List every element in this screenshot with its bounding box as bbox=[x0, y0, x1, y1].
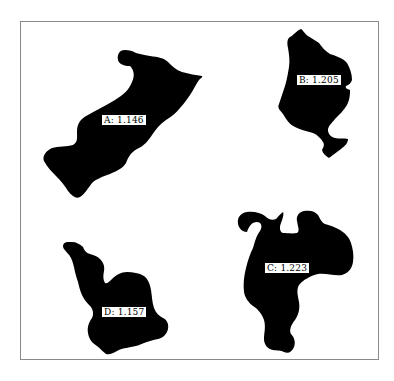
region-label-b: B: 1.205 bbox=[296, 74, 342, 86]
region-label-a: A: 1.146 bbox=[101, 114, 147, 126]
region-label-d: D: 1.157 bbox=[101, 306, 147, 318]
region-shape-d bbox=[63, 242, 168, 354]
region-shape-b bbox=[278, 29, 352, 158]
region-label-c: C: 1.223 bbox=[264, 262, 310, 274]
shapes-canvas bbox=[0, 0, 394, 381]
region-shape-c bbox=[238, 211, 354, 353]
